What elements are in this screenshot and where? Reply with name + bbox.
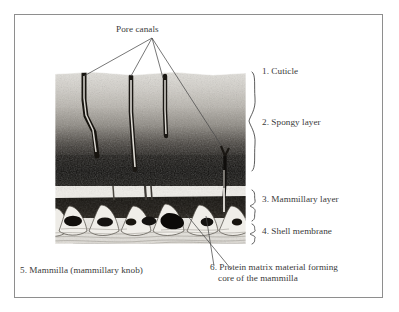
figure-root: Pore canals 1. Cuticle 2. Spongy layer 3… [0, 0, 399, 312]
label-shell-membrane: 4. Shell membrane [262, 226, 332, 237]
eggshell-micrograph [53, 70, 248, 247]
label-cuticle: 1. Cuticle [262, 66, 298, 77]
label-protein-matrix-line1: 6. Protein matrix material forming [210, 262, 338, 272]
label-spongy-layer: 2. Spongy layer [262, 117, 321, 128]
label-mammillary-layer: 3. Mammillary layer [262, 194, 339, 205]
label-protein-matrix-line2: core of the mammilla [210, 273, 370, 284]
label-mammilla: 5. Mammilla (mammillary knob) [20, 265, 143, 276]
annotation-pore-canals: Pore canals [116, 24, 159, 35]
label-protein-matrix: 6. Protein matrix material forming core … [210, 262, 370, 285]
